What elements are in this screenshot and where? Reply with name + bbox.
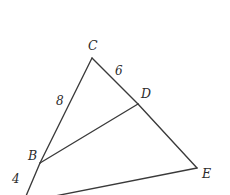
vertex-label-B: B (28, 150, 37, 163)
length-label-CB: 8 (56, 95, 64, 107)
vertex-label-E: E (202, 168, 211, 181)
length-label-CD: 6 (115, 65, 123, 77)
geometry-figure: C D B E 6 8 4 (0, 0, 230, 195)
length-label-BA: 4 (12, 173, 20, 185)
geometry-canvas (0, 0, 230, 195)
vertex-label-D: D (141, 88, 151, 101)
segment-DE (138, 104, 197, 168)
segment-BA (26, 163, 40, 195)
segment-AE (55, 168, 197, 195)
vertex-label-C: C (88, 40, 98, 53)
